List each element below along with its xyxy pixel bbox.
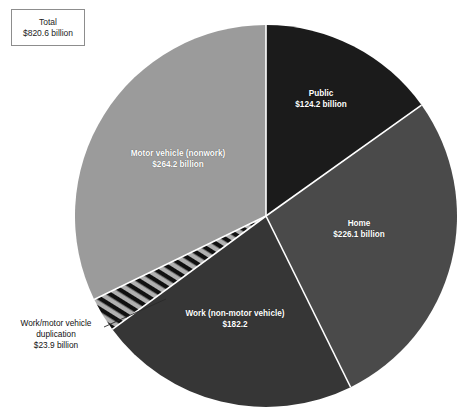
pie-chart-canvas [0,0,459,420]
slice-label-duplication-line1: Work/motor vehicle [2,318,110,329]
total-label: Total [39,17,57,27]
total-value: $820.6 billion [23,28,73,38]
pie-chart-figure: Total $820.6 billion Public $124.2 billi… [0,0,459,420]
total-callout-box: Total $820.6 billion [11,9,85,46]
slice-label-duplication-line3: $23.9 billion [2,340,110,351]
slice-label-duplication-line2: duplication [2,329,110,340]
slice-label-duplication: Work/motor vehicle duplication $23.9 bil… [2,318,110,351]
